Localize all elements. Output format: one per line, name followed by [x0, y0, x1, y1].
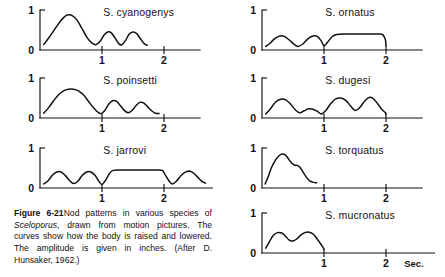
panel-s-dugesi: 1012S. dugesi [232, 70, 426, 132]
x-tick-label-2: 2 [383, 122, 389, 134]
x-tick-label-2: 2 [383, 54, 389, 66]
nod-trace [266, 34, 386, 46]
species-label: S. torquatus [325, 144, 383, 156]
y-tick-label-1: 1 [250, 207, 256, 219]
nod-trace [44, 170, 206, 184]
plot-s--ornatus: 1012S. ornatus [232, 2, 426, 64]
species-label: S. cyanogenys [103, 6, 174, 18]
x-tick-label-2: 2 [161, 192, 167, 204]
y-tick-label-1: 1 [250, 142, 256, 154]
plot-s--torquatus: 1012S. torquatus [232, 140, 426, 202]
x-tick-label-1: 1 [321, 257, 327, 269]
nod-trace [44, 89, 159, 114]
y-tick-label-1: 1 [28, 4, 34, 16]
species-label: S. dugesi [325, 74, 370, 86]
x-tick-label-2: 2 [383, 192, 389, 204]
x-tick-label-1: 1 [99, 54, 105, 66]
species-label: S. poinsetti [103, 74, 157, 86]
plot-s--poinsetti: 1012S. poinsetti [10, 70, 204, 132]
species-label: S. mucronatus [325, 209, 395, 221]
plot-s--jarrovi: 1012S. jarrovi [10, 140, 217, 202]
figure-number: Figure 6-21 [14, 208, 64, 218]
y-tick-label-0: 0 [250, 44, 256, 56]
nod-trace [266, 232, 324, 249]
x-tick-label-1: 1 [321, 192, 327, 204]
x-tick-label-1: 1 [321, 54, 327, 66]
x-tick-label-2: 2 [161, 122, 167, 134]
figure-6-21: 1012S. cyanogenys 1012S. poinsetti 1012S… [0, 0, 445, 277]
panel-s-torquatus: 1012S. torquatus [232, 140, 426, 202]
panel-s-mucronatus: 1012Sec.S. mucronatus [232, 205, 439, 267]
y-tick-label-0: 0 [250, 112, 256, 124]
x-tick-label-1: 1 [321, 122, 327, 134]
nod-trace [266, 97, 386, 114]
plot-s--cyanogenys: 1012S. cyanogenys [10, 2, 204, 64]
species-label: S. jarrovi [103, 144, 146, 156]
panel-s-jarrovi: 1012S. jarrovi [10, 140, 217, 202]
x-tick-label-1: 1 [99, 192, 105, 204]
nod-trace [265, 154, 316, 184]
panel-s-cyanogenys: 1012S. cyanogenys [10, 2, 204, 64]
y-tick-label-1: 1 [28, 142, 34, 154]
figure-caption: Figure 6-21Nod patterns in various speci… [14, 208, 212, 267]
nod-trace [44, 15, 148, 46]
panel-s-ornatus: 1012S. ornatus [232, 2, 426, 64]
x-tick-label-1: 1 [99, 122, 105, 134]
caption-text-1: Nod patterns in various species of [64, 208, 212, 218]
panel-s-poinsetti: 1012S. poinsetti [10, 70, 204, 132]
plot-s--mucronatus: 1012Sec.S. mucronatus [232, 205, 439, 267]
x-tick-label-2: 2 [161, 54, 167, 66]
y-tick-label-0: 0 [28, 112, 34, 124]
y-tick-label-1: 1 [250, 72, 256, 84]
caption-genus: Sceloporus [14, 220, 57, 230]
y-tick-label-0: 0 [28, 182, 34, 194]
y-tick-label-1: 1 [250, 4, 256, 16]
x-tick-label-2: 2 [383, 257, 389, 269]
y-tick-label-0: 0 [250, 182, 256, 194]
plot-s--dugesi: 1012S. dugesi [232, 70, 426, 132]
y-tick-label-0: 0 [28, 44, 34, 56]
species-label: S. ornatus [325, 6, 374, 18]
x-axis-unit-label: Sec. [404, 258, 424, 269]
y-tick-label-1: 1 [28, 72, 34, 84]
y-tick-label-0: 0 [250, 247, 256, 259]
